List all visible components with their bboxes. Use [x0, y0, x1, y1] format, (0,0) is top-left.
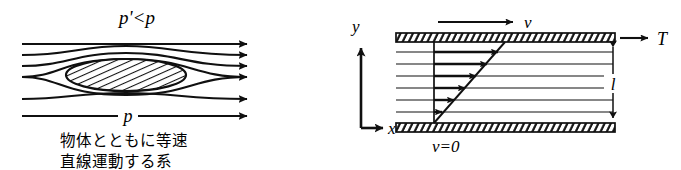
- caption-line-1: 物体とともに等速: [60, 132, 188, 150]
- label-l: l: [611, 75, 616, 94]
- label-p: p: [122, 106, 133, 126]
- physics-figure-svg: p'<p p 物体とともに等速 直線運動する系 y x: [0, 0, 681, 170]
- label-p-prime-less-than-p: p'<p: [117, 7, 155, 28]
- label-v-top: v: [524, 13, 532, 32]
- label-v-equals-zero: v=0: [432, 137, 460, 156]
- bottom-plate: [396, 123, 615, 132]
- axis-y-label: y: [350, 17, 360, 36]
- body-ellipse: [66, 59, 186, 91]
- figure-root: p'<p p 物体とともに等速 直線運動する系 y x: [0, 0, 681, 170]
- axis-x-label: x: [387, 119, 396, 138]
- top-plate: [396, 33, 615, 42]
- caption-line-2: 直線運動する系: [60, 153, 172, 170]
